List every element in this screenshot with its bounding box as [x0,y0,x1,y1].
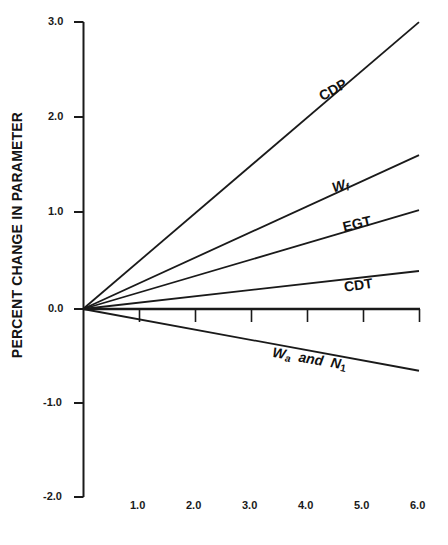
y-tick-label-1: 1.0 [48,205,63,217]
x-tick-label-5: 5.0 [354,499,369,511]
y-tick-label-0: 0.0 [48,302,63,314]
y-tick-label-neg2: -2.0 [43,490,62,502]
chart-figure: PERCENT CHANGE IN PARAMETER 3.0 2.0 1.0 … [0,0,448,545]
x-tick-label-6: 6.0 [410,499,425,511]
y-tick-label-neg1: -1.0 [43,396,62,408]
series-line-cdp [83,22,419,309]
y-tick-label-2: 2.0 [48,110,63,122]
y-axis-title-text: PERCENT CHANGE IN PARAMETER [9,112,25,358]
x-tick-label-2: 2.0 [186,499,201,511]
y-axis-title: PERCENT CHANGE IN PARAMETER [4,0,30,470]
x-tick-label-1: 1.0 [130,499,145,511]
plot-area [0,0,448,545]
x-tick-label-3: 3.0 [242,499,257,511]
y-tick-label-3: 3.0 [48,15,63,27]
x-tick-label-4: 4.0 [298,499,313,511]
series-label-conjunction: and [297,349,324,369]
